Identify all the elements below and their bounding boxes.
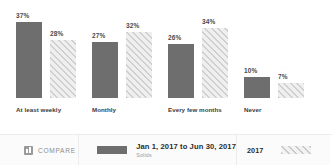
bar-group-bars: 10% 7% [242, 6, 314, 98]
bar-group-label: Monthly [92, 106, 116, 113]
bar-hatch[interactable] [278, 83, 304, 98]
bar-group-at-least-weekly: 37% 28% At least weekly [14, 6, 86, 98]
bar-value-label: 28% [50, 30, 76, 38]
bar-group-bars: 26% 34% [166, 6, 238, 98]
bar-value-label: 26% [168, 34, 194, 42]
bar-group-bars: 37% 28% [14, 6, 86, 98]
legend-series-title: 2017 [247, 146, 263, 155]
legend-text-block: 2017 [247, 146, 263, 155]
bar-hatch[interactable] [50, 40, 76, 98]
bar-group-every-few-months: 26% 34% Every few months [166, 6, 238, 98]
bar-group-label: At least weekly [16, 106, 61, 113]
bar-solid[interactable] [244, 77, 270, 98]
bar-group-monthly: 27% 32% Monthly [90, 6, 162, 98]
bar-value-label: 34% [202, 18, 228, 26]
bar-group-label: Every few months [168, 106, 222, 113]
chart-legend-footer: COMPARE Jan 1, 2017 to Jun 30, 2017 Soli… [0, 134, 332, 165]
bar-value-label: 27% [92, 32, 118, 40]
legend-item-series-one[interactable]: Jan 1, 2017 to Jun 30, 2017 Solids [79, 135, 236, 165]
bar-value-label: 10% [244, 67, 270, 75]
bar-value-label: 32% [126, 22, 152, 30]
bar-solid[interactable] [92, 42, 118, 98]
legend-item-series-two[interactable]: 2017 [236, 135, 332, 165]
legend-series-title: Jan 1, 2017 to Jun 30, 2017 [136, 142, 236, 151]
legend-series-subtitle: Solids [136, 152, 236, 158]
bar-solid[interactable] [168, 44, 194, 98]
compare-button[interactable]: COMPARE [0, 135, 79, 165]
bar-group-label: Never [244, 106, 261, 113]
bar-group-bars: 27% 32% [90, 6, 162, 98]
compare-button-label: COMPARE [38, 147, 76, 154]
bar-chart-plot: 37% 28% At least weekly 27% [14, 6, 314, 98]
chart-screenshot: 37% 28% At least weekly 27% [0, 0, 332, 165]
bar-hatch[interactable] [126, 32, 152, 98]
legend-swatch-solid [97, 146, 127, 154]
bar-group-never: 10% 7% Never [242, 6, 314, 98]
legend-text-block: Jan 1, 2017 to Jun 30, 2017 Solids [136, 142, 236, 158]
bar-value-label: 7% [278, 73, 304, 81]
legend-swatch-hatch [281, 146, 311, 154]
bar-value-label: 37% [16, 12, 42, 20]
bar-hatch[interactable] [202, 28, 228, 98]
bar-chart-icon [24, 146, 33, 155]
bar-solid[interactable] [16, 22, 42, 98]
chart-panel: 37% 28% At least weekly 27% [0, 0, 332, 132]
